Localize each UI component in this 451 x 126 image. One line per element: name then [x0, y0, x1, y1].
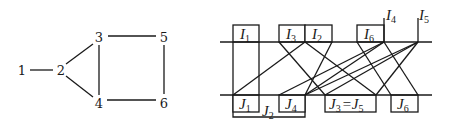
node-2: 2	[57, 63, 65, 78]
figure: 1 2 3 4 5 6	[0, 0, 451, 126]
node-6: 6	[160, 96, 168, 111]
interval-diagram: I1 I3 I2 I6 I4 I5 J1 J4 J3=J5 J6 J2	[220, 7, 432, 121]
node-1: 1	[18, 63, 26, 78]
node-5: 5	[160, 30, 168, 45]
edge-2-3	[66, 44, 93, 64]
label-i5: I5	[418, 7, 429, 25]
connections	[233, 42, 418, 95]
label-j3-j5: J3=J5	[329, 96, 363, 114]
label-i4: I4	[385, 7, 396, 25]
node-3: 3	[95, 30, 103, 45]
edge-2-4	[66, 76, 93, 97]
graph: 1 2 3 4 5 6	[18, 30, 168, 111]
node-4: 4	[95, 96, 103, 111]
label-j2: J2	[262, 103, 274, 121]
